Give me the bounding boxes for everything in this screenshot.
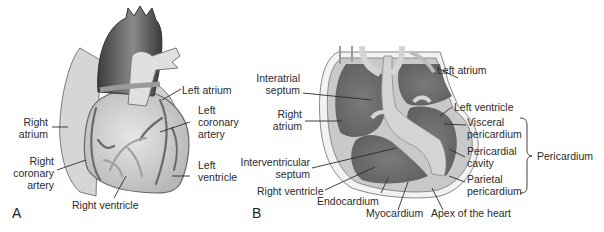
panel-a-heart	[60, 6, 189, 196]
label-endocardium: Endocardium	[317, 195, 379, 207]
label-pericardium: Pericardium	[537, 150, 593, 162]
label-interventricular-septum: Interventricular septum	[236, 156, 310, 180]
label-pericardial-cavity: Pericardial cavity	[467, 145, 517, 169]
label-visceral-pericardium: Visceral pericardium	[467, 116, 522, 140]
label-right-coronary-artery-a: Right coronary artery	[2, 155, 54, 191]
label-right-ventricle-a: Right ventricle	[72, 199, 139, 211]
label-apex: Apex of the heart	[431, 207, 511, 219]
panel-a-letter: A	[12, 205, 21, 221]
label-interatrial-septum: Interatrial septum	[250, 72, 300, 96]
label-right-atrium-a: Right atrium	[8, 116, 48, 140]
label-parietal-pericardium: Parietal pericardium	[467, 173, 522, 197]
label-left-ventricle-b: Left ventricle	[454, 101, 514, 113]
label-left-atrium-b: Left atrium	[437, 64, 487, 76]
panel-b-letter: B	[252, 205, 261, 221]
label-right-ventricle-b: Right ventricle	[257, 185, 324, 197]
label-myocardium: Myocardium	[366, 207, 423, 219]
label-left-atrium-a: Left atrium	[182, 84, 232, 96]
label-right-atrium-b: Right atrium	[260, 108, 302, 132]
label-left-coronary-artery-a: Left coronary artery	[198, 104, 239, 140]
label-left-ventricle-a: Left ventricle	[198, 159, 237, 183]
